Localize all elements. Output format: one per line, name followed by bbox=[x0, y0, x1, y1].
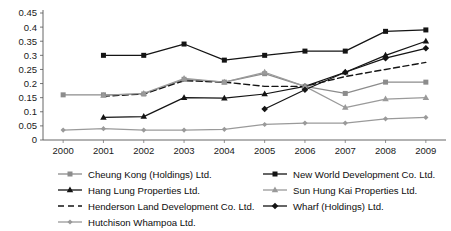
legend-marker-icon bbox=[57, 167, 83, 181]
svg-text:2002: 2002 bbox=[133, 145, 154, 156]
svg-text:2007: 2007 bbox=[335, 145, 356, 156]
svg-text:0.4: 0.4 bbox=[24, 22, 37, 33]
svg-text:2006: 2006 bbox=[294, 145, 315, 156]
legend-item[interactable]: Sun Hung Kai Properties Ltd. bbox=[262, 182, 451, 198]
svg-text:0.1: 0.1 bbox=[24, 106, 37, 117]
line-chart: 00.050.10.150.20.250.30.350.40.45 200020… bbox=[0, 0, 451, 231]
y-axis-labels: 00.050.10.150.20.250.30.350.40.45 bbox=[19, 7, 38, 145]
plot-area: 00.050.10.150.20.250.30.350.40.45 200020… bbox=[0, 0, 451, 165]
svg-text:2008: 2008 bbox=[375, 145, 396, 156]
svg-text:0.3: 0.3 bbox=[24, 50, 37, 61]
legend-item[interactable]: Hutchison Whampoa Ltd. bbox=[57, 214, 257, 230]
legend-label: Hang Lung Properties Ltd. bbox=[88, 185, 200, 196]
legend-item[interactable]: Henderson Land Development Co. Ltd. bbox=[57, 198, 257, 214]
legend: Cheung Kong (Holdings) Ltd.Hang Lung Pro… bbox=[0, 166, 451, 231]
svg-text:0.05: 0.05 bbox=[19, 120, 38, 131]
svg-text:0.25: 0.25 bbox=[19, 64, 38, 75]
legend-label: Henderson Land Development Co. Ltd. bbox=[88, 201, 254, 212]
svg-text:2003: 2003 bbox=[173, 145, 194, 156]
svg-text:2001: 2001 bbox=[93, 145, 114, 156]
legend-marker-icon bbox=[262, 167, 288, 181]
svg-text:0.35: 0.35 bbox=[19, 36, 38, 47]
legend-item[interactable]: New World Development Co. Ltd. bbox=[262, 166, 451, 182]
legend-marker-icon bbox=[57, 199, 83, 213]
legend-label: Wharf (Holdings) Ltd. bbox=[293, 201, 384, 212]
legend-marker-icon bbox=[262, 183, 288, 197]
legend-item[interactable]: Wharf (Holdings) Ltd. bbox=[262, 198, 451, 214]
svg-text:0: 0 bbox=[32, 134, 37, 145]
legend-label: Hutchison Whampoa Ltd. bbox=[88, 217, 196, 228]
legend-label: Sun Hung Kai Properties Ltd. bbox=[293, 185, 417, 196]
legend-item[interactable]: Cheung Kong (Holdings) Ltd. bbox=[57, 166, 257, 182]
legend-marker-icon bbox=[262, 199, 288, 213]
svg-text:2005: 2005 bbox=[254, 145, 275, 156]
chart-canvas: 00.050.10.150.20.250.30.350.40.45 200020… bbox=[0, 0, 451, 165]
legend-label: Cheung Kong (Holdings) Ltd. bbox=[88, 169, 212, 180]
svg-text:2009: 2009 bbox=[415, 145, 436, 156]
svg-text:0.15: 0.15 bbox=[19, 92, 38, 103]
svg-text:0.45: 0.45 bbox=[19, 7, 38, 18]
x-axis-labels: 2000200120022003200420052006200720082009 bbox=[53, 145, 437, 156]
svg-text:2000: 2000 bbox=[53, 145, 74, 156]
svg-text:2004: 2004 bbox=[214, 145, 235, 156]
svg-text:0.2: 0.2 bbox=[24, 78, 37, 89]
legend-column-left: Cheung Kong (Holdings) Ltd.Hang Lung Pro… bbox=[57, 166, 257, 230]
legend-marker-icon bbox=[57, 215, 83, 229]
legend-column-right: New World Development Co. Ltd.Sun Hung K… bbox=[262, 166, 451, 214]
legend-label: New World Development Co. Ltd. bbox=[293, 169, 435, 180]
series-lines bbox=[63, 30, 426, 130]
legend-marker-icon bbox=[57, 183, 83, 197]
legend-item[interactable]: Hang Lung Properties Ltd. bbox=[57, 182, 257, 198]
